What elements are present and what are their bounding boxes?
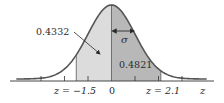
left-shaded-area — [76, 5, 111, 81]
left-bound-label: z = −1.5 — [53, 85, 96, 96]
center-label: 0 — [109, 85, 115, 96]
axis-name-label: z — [199, 85, 206, 96]
normal-distribution-figure: σ 0.4332 0.4821 z = −1.5 0 z = 2.1 z — [0, 0, 224, 103]
sigma-label: σ — [121, 34, 129, 45]
right-bound-label: z = 2.1 — [145, 85, 180, 96]
normal-curve-plot: σ 0.4332 0.4821 z = −1.5 0 z = 2.1 z — [0, 0, 224, 103]
right-area-label: 0.4821 — [119, 59, 152, 70]
left-area-label: 0.4332 — [36, 26, 69, 37]
